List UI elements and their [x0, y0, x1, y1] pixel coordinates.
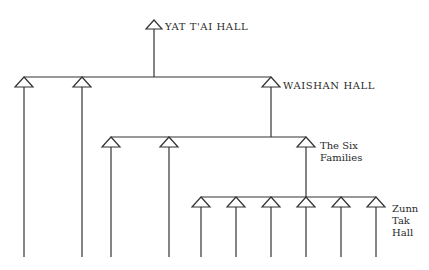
- triangle-icon: [297, 137, 315, 147]
- triangle-icon: [262, 197, 280, 207]
- triangle-icon: [227, 197, 245, 207]
- label-waishan-hall: WAISHAN HALL: [283, 80, 375, 91]
- node-yat-tai-hall: [146, 20, 162, 77]
- level1-children: [15, 77, 280, 257]
- level3-children: [192, 197, 385, 257]
- lineage-tree-diagram: [0, 0, 429, 270]
- triangle-icon: [146, 20, 162, 29]
- label-zunn-tak-hall: Zunn Tak Hall: [392, 203, 418, 239]
- triangle-icon: [15, 77, 33, 87]
- label-yat-tai-hall: YAT T'AI HALL: [165, 21, 248, 32]
- label-six-families: The Six Families: [320, 140, 362, 164]
- triangle-icon: [160, 137, 178, 147]
- triangle-icon: [73, 77, 91, 87]
- triangle-icon: [262, 77, 280, 87]
- triangle-icon: [332, 197, 350, 207]
- triangle-icon: [297, 197, 315, 207]
- triangle-icon: [102, 137, 120, 147]
- triangle-icon: [192, 197, 210, 207]
- triangle-icon: [367, 197, 385, 207]
